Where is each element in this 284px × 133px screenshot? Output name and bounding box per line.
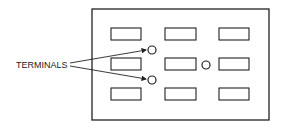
slot-grid <box>111 28 249 100</box>
slot <box>111 88 141 100</box>
slot <box>165 28 196 40</box>
leader-arrows <box>70 50 146 79</box>
terminal-circle <box>202 61 210 69</box>
terminals-label: TERMINALS <box>16 60 68 70</box>
panel-outline <box>92 9 269 120</box>
slot <box>219 28 249 40</box>
terminals <box>148 46 210 84</box>
slot <box>165 58 196 70</box>
terminal-circle <box>148 46 156 54</box>
arrow-to-upper-terminal <box>70 50 146 63</box>
arrow-to-lower-terminal <box>70 66 146 79</box>
slot <box>219 88 249 100</box>
terminal-circle <box>148 76 156 84</box>
slot <box>111 58 141 70</box>
slot <box>219 58 249 70</box>
slot <box>165 88 196 100</box>
terminal-board-diagram: TERMINALS <box>0 0 284 133</box>
slot <box>111 28 141 40</box>
